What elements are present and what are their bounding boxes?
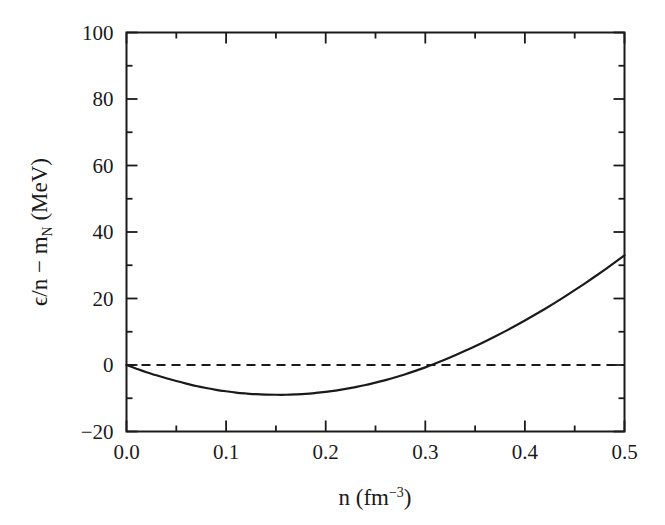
y-tick-label: 0	[103, 353, 114, 377]
x-tick-label: 0.3	[412, 440, 438, 464]
figure-container: 0.00.10.20.30.40.5 −20020406080100 n (fm…	[0, 0, 665, 525]
x-tick-label: 0.0	[113, 440, 139, 464]
x-tick-label: 0.2	[313, 440, 339, 464]
y-tick-label: 60	[93, 154, 114, 178]
y-tick-label: 20	[93, 287, 114, 311]
y-tick-label: 100	[82, 21, 114, 45]
energy-per-baryon-plot: 0.00.10.20.30.40.5 −20020406080100 n (fm…	[0, 0, 665, 525]
y-tick-label: 80	[93, 87, 114, 111]
x-tick-label: 0.4	[512, 440, 539, 464]
x-tick-label: 0.5	[611, 440, 637, 464]
y-tick-label: −20	[81, 420, 114, 444]
y-tick-label: 40	[93, 220, 114, 244]
x-tick-label: 0.1	[213, 440, 239, 464]
